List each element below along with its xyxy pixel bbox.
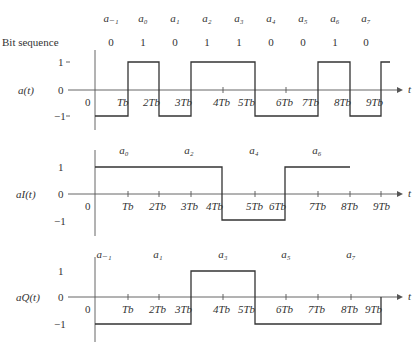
plot-aI-symbol-a2: a₂ (184, 144, 194, 156)
plot-aI-tick-6Tb: 6Tb (269, 200, 287, 212)
plot-a-ylabel: a(t) (18, 84, 34, 97)
plot-aQ-symbol-a-minus1: a₋₁ (96, 248, 111, 260)
plot-aI-level-high: 1 (58, 161, 64, 173)
symbol-a0: a₀ (138, 12, 148, 24)
plot-aI-symbol-a4: a₄ (249, 144, 259, 156)
plot-a-tick-7Tb: 7Tb (302, 96, 320, 108)
bit-row: 0 1 0 1 1 0 0 1 0 (108, 36, 369, 48)
plot-aQ-tick-4Tb: 4Tb (213, 303, 231, 315)
symbol-row: a₋₁ a₀ a₁ a₂ a₃ a₄ a₅ a₆ a₇ (103, 12, 370, 24)
plot-aQ-symbol-a3: a₃ (218, 248, 228, 260)
plot-aI-symbol-a6: a₆ (312, 144, 322, 156)
plot-aI-arrow-icon (397, 191, 403, 197)
plot-a-level-low: −1 (54, 110, 66, 122)
plot-aI-ylabel: aI(t) (16, 188, 36, 201)
symbol-a1: a₁ (170, 12, 180, 24)
plot-aQ-level-low: −1 (54, 318, 66, 330)
plot-aI-tick-3Tb: 3Tb (180, 200, 199, 212)
plot-a-tick-8Tb: 8Tb (334, 96, 352, 108)
symbol-a4: a₄ (266, 12, 276, 24)
plot-aQ-tick-5Tb: 5Tb (238, 303, 256, 315)
plot-aQ: a₋₁ a₁ a₃ a₅ a₇ aQ(t) 1 0 −1 t 0 Tb 2Tb … (16, 248, 412, 342)
symbol-a6: a₆ (330, 12, 340, 24)
plot-aQ-tick-6Tb: 6Tb (276, 303, 294, 315)
bit-3: 1 (204, 36, 210, 48)
plot-aQ-tick-8Tb: 8Tb (341, 303, 359, 315)
plot-a-tick-Tb: Tb (117, 96, 129, 108)
symbol-a-minus1: a₋₁ (103, 12, 118, 24)
plot-a-tick-5Tb: 5Tb (238, 96, 256, 108)
plot-aQ-axis-var: t (408, 290, 412, 302)
plot-aQ-tick-2Tb: 2Tb (149, 303, 167, 315)
offset-qpsk-diagram: a₋₁ a₀ a₁ a₂ a₃ a₄ a₅ a₆ a₇ Bit sequence… (0, 0, 420, 350)
bit-2: 0 (172, 36, 178, 48)
plot-aQ-symbol-a5: a₅ (281, 248, 291, 260)
plot-aI-symbol-a0: a₀ (119, 144, 129, 156)
plot-aQ-tick-3Tb: 3Tb (174, 303, 193, 315)
plot-aQ-arrow-icon (397, 294, 403, 300)
plot-aI-level-zero: 0 (58, 188, 64, 200)
plot-aQ-level-high: 1 (58, 265, 64, 277)
plot-aI-level-low: −1 (54, 215, 66, 227)
plot-aQ-tick-Tb: Tb (122, 303, 134, 315)
plot-aQ-tick-9Tb: 9Tb (365, 303, 383, 315)
bit-7: 1 (332, 36, 338, 48)
plot-aQ-waveform (95, 271, 381, 324)
plot-a-tick-4Tb: 4Tb (213, 96, 231, 108)
plot-aI-tick-9Tb: 9Tb (373, 200, 391, 212)
plot-a: a(t) 1 0 −1 t 0 Tb 2Tb 3Tb 4Tb 5Tb 6Tb 7… (18, 50, 412, 130)
plot-a-origin: 0 (85, 96, 91, 108)
bit-1: 1 (140, 36, 146, 48)
plot-a-tick-2Tb: 2Tb (143, 96, 161, 108)
symbol-a5: a₅ (298, 12, 308, 24)
plot-a-axis-var: t (408, 83, 412, 95)
plot-aI-origin: 0 (85, 200, 91, 212)
plot-aI-tick-8Tb: 8Tb (341, 200, 359, 212)
plot-a-arrow-icon (397, 87, 403, 93)
plot-a-tick-3Tb: 3Tb (174, 96, 193, 108)
plot-aI-axis-var: t (408, 187, 412, 199)
plot-aI-tick-Tb: Tb (122, 200, 134, 212)
symbol-a7: a₇ (361, 12, 371, 24)
symbol-a2: a₂ (202, 12, 212, 24)
plot-aI-tick-4Tb: 4Tb (206, 200, 224, 212)
plot-aQ-level-zero: 0 (58, 291, 64, 303)
bit-0: 0 (108, 36, 114, 48)
plot-a-tick-6Tb: 6Tb (276, 96, 294, 108)
plot-aI-tick-5Tb: 5Tb (246, 200, 264, 212)
plot-aI-tick-2Tb: 2Tb (149, 200, 167, 212)
bit-6: 0 (300, 36, 306, 48)
plot-aQ-tick-7Tb: 7Tb (308, 303, 326, 315)
symbol-a3: a₃ (234, 12, 244, 24)
plot-aI-waveform (95, 167, 350, 220)
plot-aI: a₀ a₂ a₄ a₆ aI(t) 1 0 −1 t 0 Tb 2Tb 3Tb … (16, 144, 412, 236)
bit-4: 1 (236, 36, 242, 48)
bit-5: 0 (268, 36, 274, 48)
plot-aQ-symbol-a7: a₇ (346, 248, 356, 260)
plot-aQ-origin: 0 (85, 303, 91, 315)
plot-a-level-high: 1 (58, 56, 64, 68)
bit-8: 0 (363, 36, 369, 48)
plot-aQ-ylabel: aQ(t) (16, 291, 40, 304)
bit-sequence-label: Bit sequence (2, 36, 59, 48)
plot-a-level-zero: 0 (58, 84, 64, 96)
plot-aQ-symbol-a1: a₁ (153, 248, 163, 260)
plot-aI-tick-7Tb: 7Tb (309, 200, 327, 212)
